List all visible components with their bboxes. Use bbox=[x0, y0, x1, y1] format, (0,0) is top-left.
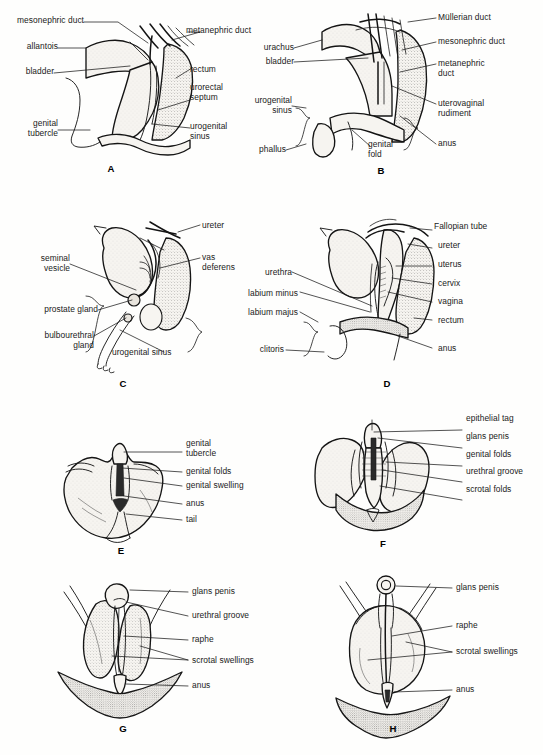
label-e-anus: anus bbox=[186, 499, 234, 509]
label-d-fallopian-tube: Fallopian tube bbox=[434, 222, 514, 232]
label-b-anus: anus bbox=[438, 139, 484, 149]
panel-b-artwork bbox=[286, 14, 436, 157]
label-e-genital-folds: genital folds bbox=[186, 467, 270, 477]
panel-letter-b: B bbox=[370, 165, 392, 176]
label-b-mullerian-duct: Müllerian duct bbox=[438, 13, 538, 23]
label-d-cervix: cervix bbox=[438, 279, 486, 289]
panel-letter-e: E bbox=[110, 545, 132, 556]
panel-letter-h: H bbox=[382, 723, 404, 734]
label-g-urethral-groove: urethral groove bbox=[192, 611, 274, 621]
label-a-genital-tubercle: genital tubercle bbox=[2, 119, 58, 138]
label-d-urethra: urethra bbox=[222, 268, 292, 278]
panel-e-artwork bbox=[64, 444, 182, 543]
label-h-glans-penis: glans penis bbox=[456, 583, 532, 593]
label-f-glans-penis: glans penis bbox=[466, 432, 540, 442]
panel-h-artwork bbox=[336, 576, 452, 738]
label-d-labium-majus: labium majus bbox=[222, 308, 298, 318]
label-b-urachus: urachus bbox=[232, 43, 294, 53]
panel-d-artwork bbox=[286, 219, 434, 360]
label-a-metanephric-duct: metanephric duct bbox=[186, 26, 272, 36]
panel-letter-f: F bbox=[372, 538, 394, 549]
label-d-ureter: ureter bbox=[438, 241, 486, 251]
label-b-urogenital-sinus: urogenital sinus bbox=[228, 96, 292, 115]
figure-plate: mesonephric duct allantois bladder genit… bbox=[0, 0, 543, 755]
label-f-urethral-groove: urethral groove bbox=[466, 467, 543, 477]
label-c-bulbourethral-gland: bulbourethral gland bbox=[2, 331, 94, 350]
label-h-scrotal-swellings: scrotal swellings bbox=[456, 647, 543, 657]
panel-f-artwork bbox=[315, 420, 462, 531]
label-c-urogenital-sinus: urogenital sinus bbox=[112, 348, 208, 358]
label-e-genital-swelling: genital swelling bbox=[186, 481, 278, 491]
label-d-clitoris: clitoris bbox=[222, 345, 284, 355]
label-g-anus: anus bbox=[192, 681, 240, 691]
label-f-epithelial-tag: epithelial tag bbox=[466, 414, 543, 424]
label-c-ureter: ureter bbox=[202, 221, 250, 231]
label-g-scrotal-swellings: scrotal swellings bbox=[192, 656, 284, 666]
label-e-genital-tubercle: genital tubercle bbox=[186, 439, 248, 458]
label-a-allantois: allantois bbox=[2, 42, 58, 52]
label-b-phallus: phallus bbox=[228, 145, 286, 155]
label-b-genital-fold: genital fold bbox=[368, 140, 410, 159]
label-g-glans-penis: glans penis bbox=[192, 587, 266, 597]
label-h-anus: anus bbox=[456, 685, 504, 695]
label-b-mesonephric-duct: mesonephric duct bbox=[438, 37, 540, 47]
label-c-prostate-gland: prostate gland bbox=[2, 305, 98, 315]
panel-letter-d: D bbox=[376, 378, 398, 389]
label-d-uterus: uterus bbox=[438, 260, 486, 270]
panel-letter-a: A bbox=[100, 163, 122, 174]
label-d-rectum: rectum bbox=[438, 316, 486, 326]
panel-letter-c: C bbox=[112, 378, 134, 389]
label-b-bladder: bladder bbox=[232, 57, 294, 67]
label-a-urogenital-sinus: urogenital sinus bbox=[190, 122, 252, 141]
label-g-raphe: raphe bbox=[192, 635, 240, 645]
label-d-vagina: vagina bbox=[438, 297, 486, 307]
panel-letter-g: G bbox=[112, 723, 134, 734]
label-f-scrotal-folds: scrotal folds bbox=[466, 485, 542, 495]
label-d-labium-minus: labium minus bbox=[222, 289, 298, 299]
label-a-bladder: bladder bbox=[2, 67, 54, 77]
label-h-raphe: raphe bbox=[456, 621, 504, 631]
label-d-anus: anus bbox=[438, 344, 486, 354]
panel-g-artwork bbox=[58, 584, 188, 718]
label-b-uterovaginal-rudiment: uterovaginal rudiment bbox=[438, 99, 514, 118]
panel-a-artwork bbox=[54, 22, 200, 155]
label-e-tail: tail bbox=[186, 515, 234, 525]
label-c-seminal-vesicle: seminal vesicle bbox=[2, 254, 70, 273]
label-f-genital-folds: genital folds bbox=[466, 450, 542, 460]
label-a-mesonephric-duct: mesonephric duct bbox=[2, 16, 84, 26]
label-b-metanephric-duct: metanephric duct bbox=[438, 59, 510, 78]
